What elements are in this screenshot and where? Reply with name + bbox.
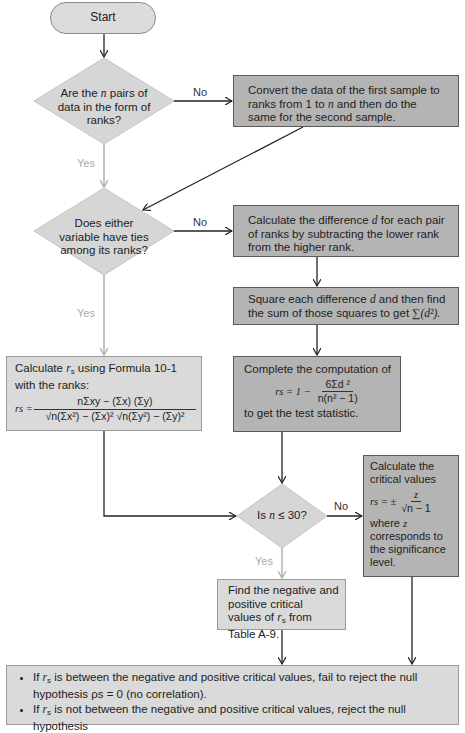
decision-ties-no-label: No (193, 216, 207, 228)
conclusion-box: If rs is between the negative and positi… (6, 665, 459, 725)
compute-denominator: n(n² − 1) (315, 392, 361, 406)
critical-z-line1: Calculate the critical values (370, 460, 455, 486)
difference-box: Calculate the difference d for each pair… (233, 205, 459, 257)
conclusion-bullet-fail-to-reject: If rs is between the negative and positi… (33, 671, 448, 701)
compute-numerator: 6Σd ² (322, 378, 353, 393)
pearson-fraction: nΣxy − (Σx) (Σy) √n(Σx²) − (Σx)² √n(Σy²)… (37, 395, 193, 423)
critical-z-denominator: √n − 1 (398, 502, 433, 515)
formula-numerator: nΣxy − (Σx) (Σy) (34, 395, 196, 410)
decision-ties-text: Does either variable have ties among its… (56, 217, 152, 258)
square-sum-box: Square each difference d and then find t… (233, 287, 459, 325)
decision-n-no-label: No (334, 500, 348, 512)
decision-ranks-text: Are the n pairs of data in the form of r… (54, 87, 154, 128)
critical-z-line3: where z corresponds to the significance … (370, 517, 455, 569)
formula-denominator: √n(Σx²) − (Σx)² √n(Σy²) − (Σy)² (42, 410, 187, 424)
critical-z-lhs: rs = ± (370, 495, 396, 508)
spearman-fraction: 6Σd ² n(n² − 1) (315, 378, 361, 406)
start-label: Start (90, 11, 115, 25)
decision-n-yes-label: Yes (255, 555, 273, 567)
critical-values-z-box: Calculate the critical values rs = ± z √… (363, 455, 459, 577)
critical-z-numerator: z (411, 488, 421, 502)
formula-box-intro: Calculate rs using Formula 10-1 with the… (15, 362, 193, 392)
table-a9-box: Find the negative and positive critical … (217, 579, 346, 630)
conclusion-list: If rs is between the negative and positi… (11, 671, 448, 733)
compute-test-statistic-box: Complete the computation of rs = 1 − 6Σd… (233, 356, 401, 432)
decision-n-text: Is n ≤ 30? (247, 509, 317, 523)
convert-to-ranks-box: Convert the data of the first sample to … (233, 75, 459, 127)
conclusion-bullet-reject: If rs is not between the negative and po… (33, 703, 448, 733)
critical-z-fraction: z √n − 1 (398, 488, 433, 515)
formula-10-1-box: Calculate rs using Formula 10-1 with the… (6, 356, 202, 431)
sum-d-squared-formula: ∑(d²). (412, 307, 440, 319)
formula-lhs: rs = (15, 402, 33, 416)
compute-line1: Complete the computation of (244, 363, 392, 377)
start-terminal: Start (50, 2, 156, 34)
decision-ranks-no-label: No (193, 86, 207, 98)
decision-ties-yes-label: Yes (77, 307, 95, 319)
compute-lhs: rs = 1 − (275, 385, 310, 399)
compute-line3: to get the test statistic. (244, 407, 392, 421)
decision-ranks-yes-label: Yes (77, 157, 95, 169)
